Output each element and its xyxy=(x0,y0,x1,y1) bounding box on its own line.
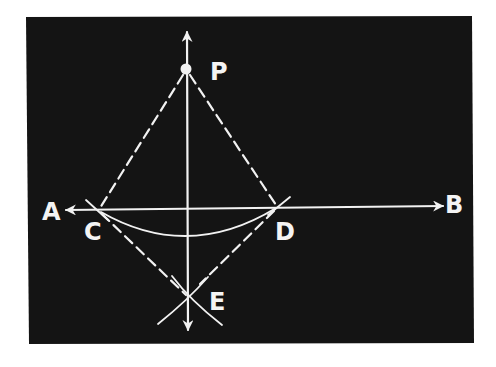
chalkboard-background xyxy=(26,16,474,344)
label-P: P xyxy=(210,58,228,86)
geometry-diagram: P A B C D E xyxy=(0,0,496,367)
label-C: C xyxy=(84,218,102,246)
perpendicular-line-PE xyxy=(187,32,188,330)
label-D: D xyxy=(275,218,295,246)
label-B: B xyxy=(445,191,463,219)
label-E: E xyxy=(209,288,225,316)
label-A: A xyxy=(42,198,61,226)
point-P-dot xyxy=(181,64,192,75)
